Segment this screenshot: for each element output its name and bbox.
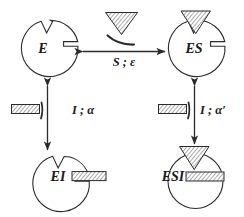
inhibitor-left-swoosh-icon — [41, 103, 42, 119]
node-label-ESI: ESI — [161, 169, 185, 184]
inhibitor-right-swoosh-icon — [188, 103, 189, 119]
edge-label-E-ES: S ; ε — [113, 55, 136, 69]
free-substrate — [106, 13, 138, 45]
node-E: E — [21, 20, 78, 76]
free-inhibitor-left — [12, 103, 43, 119]
node-label-ES: ES — [184, 41, 202, 56]
edge-label-E-EI: I ; α — [71, 103, 95, 117]
free-inhibitor-left-bar-icon — [12, 105, 40, 114]
free-inhibitor-right-bar-icon — [159, 105, 187, 114]
node-label-EI: EI — [50, 169, 66, 184]
diagram-canvas: E ES EI ESI — [0, 0, 244, 217]
bound-inhibitor-EI — [72, 172, 106, 181]
node-EI: EI — [33, 156, 106, 211]
free-inhibitor-right — [159, 103, 190, 119]
node-ESI: ESI — [161, 147, 224, 209]
bound-inhibitor-ESI — [186, 172, 224, 181]
node-label-E: E — [37, 41, 47, 56]
node-ES: ES — [168, 11, 225, 77]
enzyme-body-E — [21, 20, 78, 76]
edge-label-ES-ESI: I ; α′ — [199, 103, 226, 117]
free-substrate-triangle-icon — [106, 13, 138, 35]
enzyme-inhibition-diagram: E ES EI ESI — [0, 0, 244, 217]
substrate-swoosh-icon — [108, 36, 135, 45]
